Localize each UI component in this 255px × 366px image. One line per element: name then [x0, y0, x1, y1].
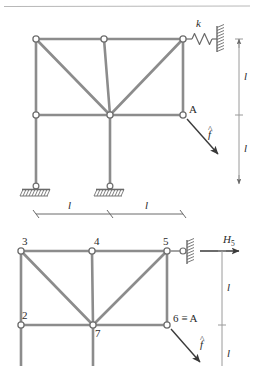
node-mid-center	[107, 112, 113, 118]
lower-frame-members	[21, 251, 167, 366]
node-5	[164, 248, 170, 254]
spring-stiffness-label: k	[196, 18, 201, 29]
node-2	[18, 322, 24, 328]
link-support-icon	[170, 248, 186, 254]
dim-horizontal-left-label: l	[68, 200, 71, 211]
spring-icon	[186, 34, 217, 45]
dim-vertical-top-label-upper: l	[244, 71, 247, 82]
force-arrow-upper	[187, 119, 218, 154]
figure-canvas: k A ^ f l l l l 3 4 5 2 7 6 ≡ A H5 ^ f l…	[0, 0, 255, 366]
node-label-6-equiv-A: 6 ≡ A	[173, 313, 198, 324]
node-top-right	[180, 36, 186, 42]
dimension-vertical-lower	[218, 251, 226, 366]
node-mid-left	[33, 112, 39, 118]
pinned-support-left	[20, 183, 50, 196]
member-diagonal-right	[110, 39, 183, 115]
structural-diagram-svg	[0, 0, 255, 366]
dimension-horizontal-upper	[33, 210, 186, 218]
node-mid-right-A	[180, 112, 186, 118]
reaction-subscript: 5	[231, 239, 235, 248]
wall-icon-lower	[187, 239, 194, 265]
member-col-center-upper-2	[92, 251, 93, 325]
node-label-2: 2	[22, 310, 28, 321]
pinned-support-center	[94, 183, 124, 196]
member-diagonal-left	[36, 39, 110, 115]
force-label-upper: ^ f	[208, 129, 211, 140]
node-top-center	[101, 36, 107, 42]
node-label-4: 4	[94, 236, 100, 247]
node-label-5: 5	[163, 236, 169, 247]
force-hat-upper: ^	[208, 125, 212, 134]
wall-icon-upper	[217, 25, 224, 53]
member-col-center-upper	[104, 39, 110, 115]
node-6	[164, 322, 170, 328]
dimension-vertical-upper	[235, 39, 243, 184]
node-label-7: 7	[95, 328, 101, 339]
force-label-lower: ^ f	[200, 339, 203, 350]
member-diagonal-left-2	[21, 251, 93, 325]
reaction-label-H5: H5	[223, 234, 235, 248]
dim-vertical-top-label-lower: l	[227, 282, 230, 293]
node-4	[89, 248, 95, 254]
node-top-left	[33, 36, 39, 42]
dim-vertical-bottom-label-lower: l	[227, 348, 230, 359]
force-arrow-lower	[171, 329, 200, 362]
member-diagonal-right-2	[93, 251, 167, 325]
reaction-letter: H	[223, 233, 231, 245]
dim-horizontal-right-label: l	[145, 200, 148, 211]
dim-vertical-bottom-label-upper: l	[244, 143, 247, 154]
force-hat-lower: ^	[200, 335, 204, 344]
node-A-label: A	[189, 104, 197, 115]
node-label-3: 3	[22, 236, 28, 247]
page-top-rule	[4, 6, 250, 7]
node-3	[18, 248, 24, 254]
